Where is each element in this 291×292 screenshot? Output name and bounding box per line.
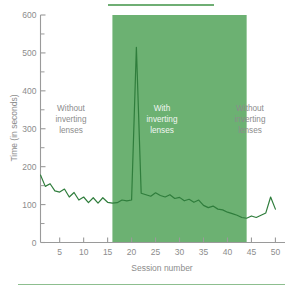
x-tick-label-20: 20 bbox=[127, 247, 137, 257]
x-tick-label-10: 10 bbox=[79, 247, 89, 257]
phase-1-annotation: Without inverting lenses bbox=[56, 104, 87, 135]
y-axis-tick-labels: 0100200300400500600 bbox=[22, 10, 36, 248]
x-tick-label-25: 25 bbox=[151, 247, 161, 257]
x-tick-label-15: 15 bbox=[103, 247, 113, 257]
x-tick-label-50: 50 bbox=[271, 247, 281, 257]
y-tick-label-600: 600 bbox=[22, 10, 36, 20]
y-tick-label-500: 500 bbox=[22, 48, 36, 58]
phase-3-line-2: inverting bbox=[235, 115, 266, 124]
y-tick-label-0: 0 bbox=[32, 238, 37, 248]
bottom-decorative-rule bbox=[18, 284, 285, 285]
phase-2-line-3: lenses bbox=[150, 126, 174, 135]
top-decorative-rule bbox=[108, 4, 214, 6]
x-tick-label-30: 30 bbox=[175, 247, 185, 257]
y-tick-label-200: 200 bbox=[22, 162, 36, 172]
y-axis-ticks bbox=[41, 15, 46, 243]
y-tick-label-300: 300 bbox=[22, 124, 36, 134]
x-tick-label-5: 5 bbox=[57, 247, 62, 257]
x-axis-tick-labels: 5101520253035404550 bbox=[57, 247, 280, 257]
chart-figure: 0100200300400500600 5101520253035404550 … bbox=[0, 0, 291, 292]
phase-3-line-1: Without bbox=[236, 104, 264, 113]
phase-2-line-1: With bbox=[154, 104, 171, 113]
x-tick-label-35: 35 bbox=[199, 247, 209, 257]
y-axis-title: Time (in seconds) bbox=[9, 94, 19, 161]
x-tick-label-40: 40 bbox=[223, 247, 233, 257]
phase-3-annotation: Without inverting lenses bbox=[235, 104, 266, 135]
phase-2-line-2: inverting bbox=[147, 115, 178, 124]
phase-1-line-1: Without bbox=[57, 104, 85, 113]
phase-3-line-3: lenses bbox=[238, 126, 262, 135]
x-axis-title: Session number bbox=[131, 263, 193, 273]
x-tick-label-45: 45 bbox=[247, 247, 257, 257]
y-tick-label-400: 400 bbox=[22, 86, 36, 96]
y-tick-label-100: 100 bbox=[22, 200, 36, 210]
with-inverting-lenses-band bbox=[112, 15, 246, 243]
phase-1-line-3: lenses bbox=[59, 126, 83, 135]
phase-1-line-2: inverting bbox=[56, 115, 87, 124]
line-chart: 0100200300400500600 5101520253035404550 … bbox=[0, 0, 291, 292]
